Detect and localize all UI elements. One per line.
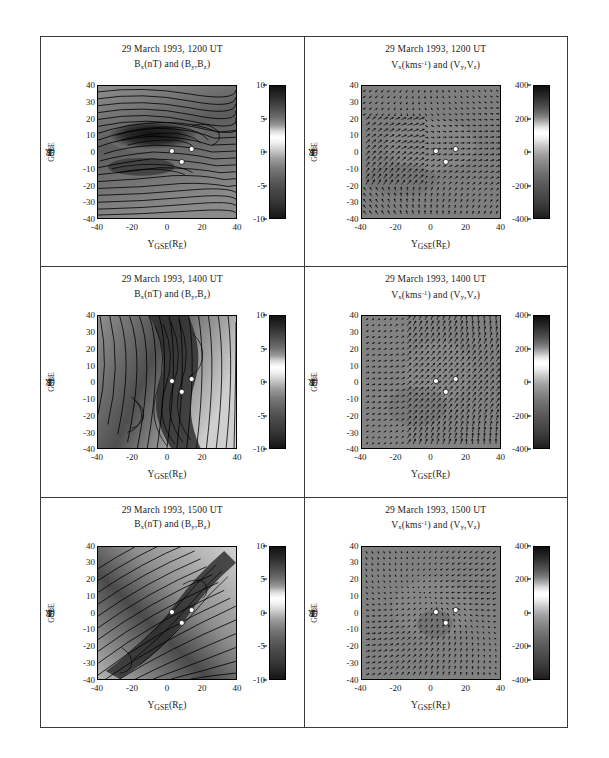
- colorbar-tick-mark: [527, 382, 531, 383]
- y-tick--10: -10: [71, 624, 95, 634]
- y-tick--30: -30: [335, 658, 359, 668]
- colorbar-tick-0: 0: [237, 147, 265, 157]
- figure-grid: 29 March 1993, 1200 UT Bx(nT) and (By,Bz…: [40, 36, 568, 728]
- panel-b-1500: 29 March 1993, 1500 UT Bx(nT) and (By,Bz…: [41, 498, 305, 727]
- vector-plot: [361, 546, 501, 680]
- colorbar-tick-mark: [527, 348, 531, 349]
- y-tick-10: 10: [71, 591, 95, 601]
- colorbar-tick-5: 5: [237, 344, 265, 354]
- x-tick--40: -40: [355, 452, 367, 462]
- x-axis-label: YGSE(RE): [361, 700, 501, 712]
- contour-plot: [97, 85, 237, 219]
- colorbar-tick-labels: 1050-5-10: [237, 315, 267, 449]
- x-axis-label: YGSE(RE): [97, 700, 237, 712]
- y-tick-10: 10: [335, 361, 359, 371]
- y-tick--30: -30: [71, 197, 95, 207]
- y-tick--20: -20: [335, 181, 359, 191]
- colorbar-tick--5: -5: [237, 181, 265, 191]
- colorbar-magnetic: [269, 546, 286, 680]
- y-tick-20: 20: [71, 114, 95, 124]
- colorbar-tick-mark: [263, 449, 267, 450]
- y-tick-30: 30: [71, 557, 95, 567]
- x-tick--20: -20: [390, 222, 402, 232]
- x-tick-labels: -40-2002040: [361, 452, 501, 464]
- y-axis-label: ZGSE(RE): [43, 315, 56, 449]
- x-axis-label: YGSE(RE): [361, 239, 501, 251]
- colorbar-tick--400: -400: [501, 214, 529, 224]
- colorbar-tick--10: -10: [237, 444, 265, 454]
- x-tick-20: 20: [461, 452, 470, 462]
- contour-plot: [97, 315, 237, 449]
- colorbar-magnetic: [269, 315, 286, 449]
- figure-row-1200: 29 March 1993, 1200 UT Bx(nT) and (By,Bz…: [41, 37, 567, 267]
- y-tick--10: -10: [71, 394, 95, 404]
- y-tick-0: 0: [335, 608, 359, 618]
- panel-quantity: Vx(kms-1) and (Vy,Vz): [305, 288, 568, 302]
- colorbar-tick-mark: [263, 85, 267, 86]
- x-tick--40: -40: [355, 222, 367, 232]
- plot-area: ZGSE(RE) 403020100-10-20-30-40: [41, 79, 304, 266]
- colorbar-tick-mark: [527, 219, 531, 220]
- panel-title: 29 March 1993, 1400 UT Vx(kms-1) and (Vy…: [305, 273, 568, 302]
- colorbar-tick-mark: [263, 315, 267, 316]
- panel-date: 29 March 1993, 1200 UT: [385, 44, 486, 54]
- colorbar-tick-mark: [527, 415, 531, 416]
- colorbar-tick-mark: [263, 612, 267, 613]
- y-tick-0: 0: [71, 147, 95, 157]
- colorbar-tick-0: 0: [501, 147, 529, 157]
- colorbar-tick-mark: [263, 382, 267, 383]
- panel-title: 29 March 1993, 1200 UT Bx(nT) and (By,Bz…: [41, 43, 304, 72]
- y-tick-30: 30: [71, 97, 95, 107]
- colorbar-tick-mark: [527, 545, 531, 546]
- x-axis-label: YGSE(RE): [97, 239, 237, 251]
- panel-quantity: Bx(nT) and (By,Bz): [41, 58, 304, 72]
- colorbar-tick-labels: 4002000-200-400: [501, 315, 531, 449]
- colorbar-tick-0: 0: [237, 608, 265, 618]
- vector-plot: [361, 315, 501, 449]
- y-tick-20: 20: [335, 114, 359, 124]
- x-tick-20: 20: [198, 222, 207, 232]
- panel-v-1500: 29 March 1993, 1500 UT Vx(kms-1) and (Vy…: [305, 498, 568, 727]
- colorbar-tick-10: 10: [237, 80, 265, 90]
- y-tick-labels: 403020100-10-20-30-40: [333, 315, 359, 449]
- y-tick--30: -30: [335, 428, 359, 438]
- colorbar-tick--400: -400: [501, 444, 529, 454]
- colorbar-tick-labels: 4002000-200-400: [501, 85, 531, 219]
- x-tick-0: 0: [428, 452, 433, 462]
- y-tick--20: -20: [71, 411, 95, 421]
- vector-plot: [361, 85, 501, 219]
- y-tick-0: 0: [335, 377, 359, 387]
- colorbar-tick-200: 200: [501, 574, 529, 584]
- y-tick--10: -10: [71, 164, 95, 174]
- colorbar-tick-mark: [527, 449, 531, 450]
- panel-date: 29 March 1993, 1500 UT: [122, 505, 223, 515]
- colorbar-tick-0: 0: [237, 377, 265, 387]
- y-tick-30: 30: [335, 557, 359, 567]
- x-tick--40: -40: [355, 683, 367, 693]
- colorbar-tick-400: 400: [501, 310, 529, 320]
- colorbar-tick-mark: [527, 646, 531, 647]
- y-tick-40: 40: [335, 541, 359, 551]
- colorbar-tick-labels: 1050-5-10: [237, 85, 267, 219]
- colorbar-tick--400: -400: [501, 675, 529, 685]
- panel-quantity: Bx(nT) and (By,Bz): [41, 288, 304, 302]
- y-tick-10: 10: [71, 130, 95, 140]
- colorbar-tick-mark: [263, 415, 267, 416]
- x-tick-labels: -40-2002040: [97, 452, 237, 464]
- colorbar-tick-labels: 1050-5-10: [237, 546, 267, 680]
- colorbar-tick-mark: [527, 185, 531, 186]
- x-tick-0: 0: [165, 683, 170, 693]
- colorbar-velocity: [533, 546, 550, 680]
- panel-quantity: Vx(kms-1) and (Vy,Vz): [305, 58, 568, 72]
- panel-b-1400: 29 March 1993, 1400 UT Bx(nT) and (By,Bz…: [41, 267, 305, 496]
- y-tick-0: 0: [335, 147, 359, 157]
- y-tick--10: -10: [335, 164, 359, 174]
- panel-v-1400: 29 March 1993, 1400 UT Vx(kms-1) and (Vy…: [305, 267, 568, 496]
- y-tick-10: 10: [335, 130, 359, 140]
- colorbar-tick-0: 0: [501, 608, 529, 618]
- plot-area: ZGSE(RE) 403020100-10-20-30-40: [41, 309, 304, 496]
- y-axis-label: ZGSE(RE): [307, 315, 320, 449]
- colorbar-tick-mark: [527, 612, 531, 613]
- colorbar-tick-200: 200: [501, 344, 529, 354]
- x-tick-labels: -40-2002040: [97, 683, 237, 695]
